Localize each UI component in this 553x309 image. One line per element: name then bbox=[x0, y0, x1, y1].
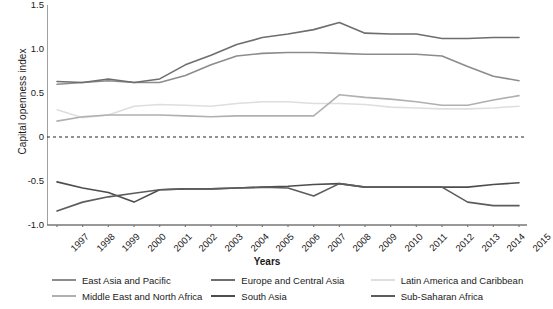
x-tick-label: 2010 bbox=[402, 231, 425, 254]
legend-label: Latin America and Caribbean bbox=[401, 275, 524, 286]
x-tick-label: 2002 bbox=[197, 231, 220, 254]
legend-label: Sub-Saharan Africa bbox=[401, 291, 483, 302]
x-axis-title: Years bbox=[0, 256, 534, 267]
x-tick-label: 2011 bbox=[427, 231, 449, 253]
x-tick-label: 1998 bbox=[94, 231, 117, 254]
legend-swatch-icon bbox=[52, 279, 76, 281]
legend-item[interactable]: Latin America and Caribbean bbox=[371, 272, 526, 288]
x-tick-label: 1999 bbox=[120, 231, 143, 254]
legend-swatch-icon bbox=[211, 279, 235, 281]
x-tick-label: 2013 bbox=[479, 231, 502, 254]
legend-swatch-icon bbox=[211, 295, 235, 297]
legend-item[interactable]: South Asia bbox=[211, 288, 366, 304]
x-tick-label: 2009 bbox=[376, 231, 399, 254]
x-tick-label: 2005 bbox=[274, 231, 297, 254]
legend-item[interactable]: East Asia and Pacific bbox=[52, 272, 207, 288]
x-tick-label: 2004 bbox=[248, 231, 271, 254]
x-tick-label: 2008 bbox=[351, 231, 374, 254]
legend-label: South Asia bbox=[241, 291, 286, 302]
legend-swatch-icon bbox=[371, 279, 395, 281]
legend-label: East Asia and Pacific bbox=[82, 275, 171, 286]
x-tick-label: 2007 bbox=[325, 231, 348, 254]
x-tick-label: 2001 bbox=[171, 231, 194, 254]
x-tick-label: 2012 bbox=[453, 231, 476, 254]
legend-swatch-icon bbox=[371, 295, 395, 297]
legend-label: Middle East and North Africa bbox=[82, 291, 202, 302]
x-tick-label: 2000 bbox=[145, 231, 168, 254]
x-tick-label: 2015 bbox=[530, 231, 553, 254]
legend-item[interactable]: Middle East and North Africa bbox=[52, 288, 207, 304]
x-tick-label: 2006 bbox=[299, 231, 322, 254]
legend-item[interactable]: Sub-Saharan Africa bbox=[371, 288, 526, 304]
legend-swatch-icon bbox=[52, 295, 76, 297]
x-tick-label: 2003 bbox=[222, 231, 245, 254]
x-tick-label: 1997 bbox=[68, 231, 91, 254]
legend-label: Europe and Central Asia bbox=[241, 275, 344, 286]
x-tick-label: 2014 bbox=[505, 231, 528, 254]
chart-legend: East Asia and PacificEurope and Central … bbox=[52, 272, 526, 304]
legend-item[interactable]: Europe and Central Asia bbox=[211, 272, 366, 288]
